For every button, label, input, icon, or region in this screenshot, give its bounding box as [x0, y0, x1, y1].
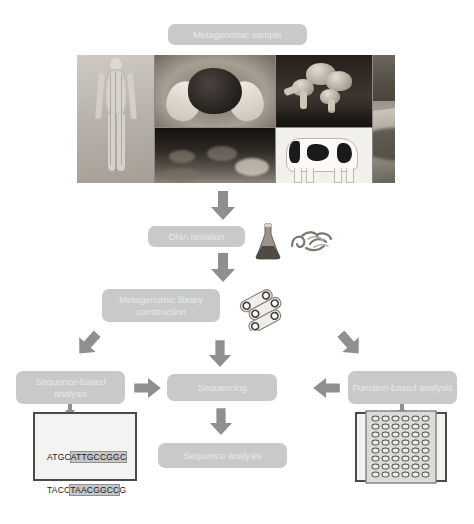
dna-seq-suffix: G	[119, 485, 126, 495]
microarray-well	[382, 416, 390, 422]
microarray-well	[392, 456, 400, 462]
cow-leg	[346, 168, 354, 183]
microarray-well	[392, 424, 400, 430]
step-box-metagenomic-sample: Metagenomic sample	[168, 24, 307, 45]
collage-image-fungi	[276, 55, 372, 127]
microarray-well	[402, 416, 410, 422]
mushroom-cap	[326, 71, 352, 91]
microarray-well	[372, 448, 380, 454]
microarray-well	[382, 472, 390, 478]
microarray-well	[382, 456, 390, 462]
cow-spot	[289, 141, 300, 163]
microarray-well	[402, 472, 410, 478]
microarray-well	[372, 440, 380, 446]
microarray-well	[382, 432, 390, 438]
microarray-well	[412, 456, 420, 462]
arrow-library-to-sequence-based	[70, 326, 107, 363]
cow-spot	[307, 144, 329, 161]
dna-sequence-line: ATGCATTGCCGGC	[47, 452, 126, 463]
body-meridian-line	[115, 71, 116, 171]
microarray-well	[392, 432, 400, 438]
step-box-sequence-analysis: Sequence analysis	[158, 443, 287, 468]
microarray-well	[402, 424, 410, 430]
sediment-highlight	[235, 158, 269, 176]
collage-image-human-body	[77, 55, 154, 183]
cow-leg	[334, 168, 342, 183]
microarray-well	[392, 448, 400, 454]
dna-seq-highlight: ATTGCCGGC	[71, 452, 126, 462]
collage-image-cow	[276, 128, 372, 183]
microarray-well	[412, 440, 420, 446]
step-label-metagenomic-sample: Metagenomic sample	[193, 29, 282, 41]
step-box-sequence-based-analysis: Sequence-based analysis	[16, 371, 125, 404]
cow-leg	[294, 168, 302, 183]
soil-clump	[188, 68, 242, 114]
collage-image-hands-holding-soil	[155, 55, 275, 127]
arrow-library-to-function-based	[332, 326, 369, 363]
microarray-well	[422, 440, 430, 446]
dna-sequence-line: TACCTAACGGCCG	[47, 485, 126, 496]
microarray-well	[372, 424, 380, 430]
microarray-well	[402, 432, 410, 438]
diagram-canvas: Metagenomic sample	[0, 0, 474, 524]
step-label-function-based-analysis: Function-based analysis	[352, 382, 452, 394]
microarray-well	[422, 448, 430, 454]
microarray-well	[382, 424, 390, 430]
body-meridian-line	[121, 75, 122, 165]
river-bank	[373, 127, 395, 161]
microarray-well	[402, 464, 410, 470]
microarray-well	[412, 472, 420, 478]
river-treeline	[373, 55, 395, 101]
microarray-well	[422, 472, 430, 478]
mushroom-stem	[300, 91, 307, 109]
dna-strands-icon	[288, 226, 334, 256]
microarray-well	[402, 448, 410, 454]
arrow-sequencing-to-analysis	[209, 408, 233, 436]
dna-sequence-readout: ATGCATTGCCGGC TACCTAACGGCCG	[47, 430, 126, 518]
step-label-sequencing: Sequencing	[197, 382, 246, 394]
conical-flask-icon	[253, 222, 283, 260]
dna-seq-prefix: TACC	[47, 485, 70, 495]
arrow-dna-to-library	[210, 253, 236, 283]
microarray-well	[422, 424, 430, 430]
microarray-well	[392, 472, 400, 478]
microarray-well	[412, 416, 420, 422]
microarray-well	[382, 440, 390, 446]
microarray-well	[422, 416, 430, 422]
step-box-dna-isolation: DNA isolation	[148, 226, 245, 247]
microarray-well	[372, 464, 380, 470]
body-arm-left	[95, 73, 105, 119]
sample-source-collage	[77, 55, 395, 183]
microarray-plate	[366, 411, 437, 484]
step-label-library-construction: Metagenomic library construction	[106, 294, 216, 317]
microarray-well	[412, 432, 420, 438]
body-arm-right	[127, 73, 137, 119]
sediment-blob	[207, 146, 237, 161]
dna-sequence-panel: ATGCATTGCCGGC TACCTAACGGCCG	[33, 412, 137, 481]
microarray-well	[402, 440, 410, 446]
microarray-well	[392, 464, 400, 470]
microarray-well	[412, 448, 420, 454]
cow-body	[286, 138, 358, 172]
plasmid-clones-icon	[238, 287, 288, 331]
microarray-well	[392, 440, 400, 446]
step-box-sequencing: Sequencing	[167, 374, 277, 401]
step-label-sequence-analysis: Sequence analysis	[183, 450, 261, 462]
collage-image-river-stream	[373, 55, 395, 183]
microarray-well	[372, 416, 380, 422]
microarray-well	[392, 416, 400, 422]
collage-image-sediment	[155, 128, 275, 183]
sediment-blob	[169, 150, 195, 163]
dna-seq-prefix: ATGC	[47, 452, 71, 462]
microarray-panel	[355, 412, 447, 482]
arrow-sequence-based-to-sequencing	[134, 377, 162, 399]
microarray-well	[412, 464, 420, 470]
microarray-well	[422, 464, 430, 470]
cow-spot	[337, 143, 352, 163]
microarray-well	[382, 464, 390, 470]
sediment-blob	[161, 168, 201, 182]
microarray-well	[372, 472, 380, 478]
microarray-well	[402, 456, 410, 462]
microarray-well	[422, 456, 430, 462]
body-meridian-line	[110, 75, 111, 165]
